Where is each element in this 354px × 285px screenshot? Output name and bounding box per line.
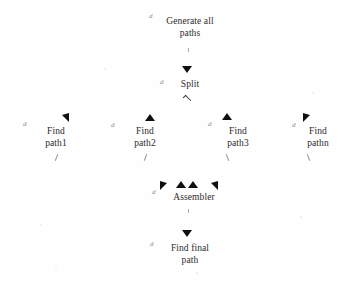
node-find-pathn[interactable]: Find pathn <box>283 126 353 149</box>
paper-speck <box>104 68 106 70</box>
node-split[interactable]: Split <box>155 79 225 91</box>
edge-tail-path2-to-assembler <box>144 154 148 161</box>
edge-tail-split-fan <box>183 95 191 103</box>
arrowhead-generate-to-split <box>182 66 192 73</box>
node-find-path3[interactable]: Find path3 <box>200 126 276 149</box>
arrowhead-path1-to-assembler <box>160 181 167 190</box>
paper-speck <box>196 272 198 274</box>
arrowhead-path2-to-assembler <box>176 181 186 188</box>
edge-tail-pathn-to-assembler <box>307 154 311 161</box>
arrowhead-pathn-to-assembler <box>211 181 218 190</box>
paper-speck <box>55 268 57 270</box>
edge-tail-path3-to-assembler <box>226 154 230 161</box>
node-assembler[interactable]: Assembler <box>149 192 239 204</box>
arrowhead-split-to-find-path3 <box>222 113 232 120</box>
arrowhead-assembler-to-find-final-path <box>182 230 192 237</box>
node-find-path1[interactable]: Find path1 <box>18 126 94 149</box>
arrowhead-split-to-find-path1 <box>62 113 69 122</box>
diagram-canvas: d Generate all paths d Split d Find path… <box>0 0 354 285</box>
arrowhead-split-to-find-pathn <box>303 113 310 122</box>
node-find-path2[interactable]: Find path2 <box>107 126 183 149</box>
node-find-final-path[interactable]: Find final path <box>140 243 240 266</box>
paper-speck <box>40 224 42 226</box>
edge-tail-generate-to-split <box>188 48 189 52</box>
edge-tail-assembler-to-final <box>188 209 189 213</box>
edge-tail-path1-to-assembler <box>55 154 59 161</box>
node-generate-all-paths[interactable]: Generate all paths <box>135 16 245 39</box>
arrowhead-path3-to-assembler <box>188 181 198 188</box>
paper-speck <box>312 92 314 94</box>
paper-speck <box>300 216 302 218</box>
arrowhead-split-to-find-path2 <box>145 114 155 121</box>
